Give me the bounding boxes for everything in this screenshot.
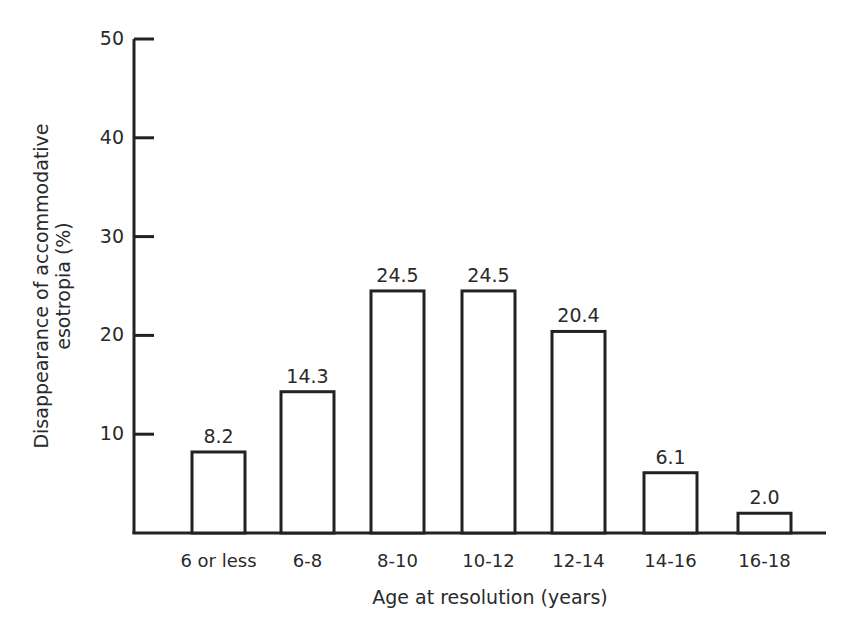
bar: [371, 291, 424, 533]
bar-value-label: 6.1: [631, 446, 711, 468]
x-axis-label: Age at resolution (years): [0, 586, 852, 608]
y-tick-label: 30: [84, 225, 124, 247]
x-category-label: 8-10: [348, 550, 448, 571]
bar: [738, 513, 791, 533]
bar-value-label: 24.5: [449, 264, 529, 286]
y-axis-label-line-2: esotropia (%): [52, 123, 74, 448]
y-axis-label: Disappearance of accommodative esotropia…: [30, 123, 74, 448]
x-category-label: 12-14: [529, 550, 629, 571]
bar-value-label: 20.4: [539, 304, 619, 326]
y-tick-label: 50: [84, 27, 124, 49]
x-category-label: 10-12: [439, 550, 539, 571]
plot-area: [0, 0, 852, 634]
y-axis-label-line-1: Disappearance of accommodative: [30, 123, 52, 448]
bar: [462, 291, 515, 533]
bar: [281, 392, 334, 533]
bar-value-label: 24.5: [358, 264, 438, 286]
bar: [644, 473, 697, 533]
x-category-label: 6 or less: [169, 550, 269, 571]
y-tick-label: 10: [84, 422, 124, 444]
bar-chart: Disappearance of accommodative esotropia…: [0, 0, 852, 634]
bar: [552, 331, 605, 533]
y-tick-label: 40: [84, 126, 124, 148]
bar: [192, 452, 245, 533]
bar-value-label: 8.2: [179, 425, 259, 447]
x-category-label: 6-8: [258, 550, 358, 571]
bar-value-label: 14.3: [268, 365, 348, 387]
x-category-label: 16-18: [715, 550, 815, 571]
y-tick-label: 20: [84, 323, 124, 345]
x-category-label: 14-16: [621, 550, 721, 571]
bar-value-label: 2.0: [725, 486, 805, 508]
